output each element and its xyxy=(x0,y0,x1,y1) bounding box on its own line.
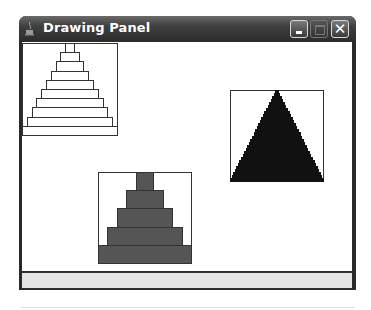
minimize-icon xyxy=(296,31,302,34)
drawing-panel-window: Drawing Panel ✕ xyxy=(19,16,356,290)
minimize-button[interactable] xyxy=(290,20,308,38)
gray-pyramid-layer xyxy=(107,227,182,246)
divider xyxy=(20,307,355,308)
maximize-icon xyxy=(315,25,325,35)
maximize-button[interactable] xyxy=(310,20,328,38)
status-bar xyxy=(22,272,352,288)
outlined-pyramid-box xyxy=(22,43,118,135)
window-title: Drawing Panel xyxy=(43,20,150,35)
gray-pyramid-layer xyxy=(117,208,173,227)
outlined-pyramid-layer xyxy=(22,126,118,136)
gray-pyramid-box xyxy=(98,172,192,263)
gray-pyramid-layer xyxy=(136,172,155,191)
black-pyramid-layer xyxy=(230,178,324,182)
black-pyramid-box xyxy=(230,90,324,181)
title-bar[interactable]: Drawing Panel ✕ xyxy=(19,16,356,42)
java-cup-icon xyxy=(25,22,35,36)
close-icon: ✕ xyxy=(332,21,348,37)
drawing-canvas xyxy=(22,42,352,271)
gray-pyramid-layer xyxy=(98,245,192,264)
close-button[interactable]: ✕ xyxy=(331,20,349,38)
gray-pyramid-layer xyxy=(126,190,164,209)
